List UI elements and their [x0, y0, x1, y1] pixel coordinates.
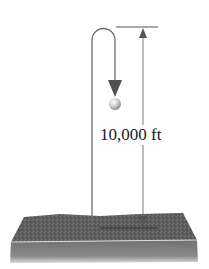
ground-front-face [10, 240, 198, 263]
path-arrowhead-down-icon [108, 80, 122, 97]
height-label: 10,000 ft [98, 125, 163, 145]
falling-object-diagram: 10,000 ft [0, 0, 209, 269]
dimension-arrow-up-icon [139, 28, 147, 38]
falling-ball [109, 98, 121, 110]
ground-slab [10, 213, 198, 263]
